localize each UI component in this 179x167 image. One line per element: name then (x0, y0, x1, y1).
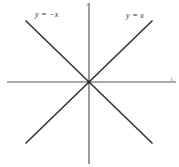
y-axis-label: y (86, 1, 89, 8)
equation-label-negative-x: y = −x (35, 11, 59, 19)
coordinate-plane-figure: y = −x y = x x y (0, 0, 179, 167)
origin-point (87, 80, 90, 83)
plot-canvas (0, 0, 179, 167)
x-axis-label: x (170, 76, 173, 83)
equation-label-positive-x: y = x (126, 12, 144, 20)
